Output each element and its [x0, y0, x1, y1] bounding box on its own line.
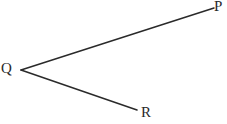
vertex-label-r: R: [141, 105, 151, 120]
ray-qp-line: [21, 8, 214, 70]
angle-diagram-lines: [0, 0, 227, 124]
angle-diagram-canvas: Q P R: [0, 0, 227, 124]
vertex-label-p: P: [214, 0, 222, 14]
ray-qr-line: [21, 70, 137, 110]
vertex-label-q: Q: [1, 61, 12, 76]
